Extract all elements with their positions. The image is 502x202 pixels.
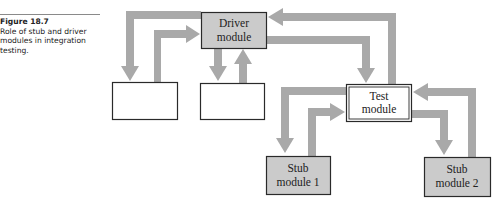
- driver-module-label-line2: module: [217, 31, 252, 43]
- blank-module-1-node: [113, 83, 178, 120]
- arrow-driver-to-test: [266, 36, 375, 83]
- arrow-driver-to-blank2: [209, 48, 227, 81]
- arrow-test-to-driver: [268, 8, 396, 85]
- blank-module-2-node: [201, 84, 265, 120]
- integration-testing-diagram: Driver module Test module Stub module 1 …: [0, 0, 502, 202]
- stub-module-1-node: Stub module 1: [267, 157, 331, 195]
- arrow-stub1-to-test: [308, 103, 345, 156]
- stub-module-1-label-line2: module 1: [276, 176, 319, 188]
- test-module-label-line1: Test: [370, 90, 390, 102]
- stub-module-2-label-line2: module 2: [435, 177, 478, 189]
- stub-module-1-label-line1: Stub: [287, 162, 308, 174]
- test-module-node: Test module: [347, 85, 412, 122]
- arrow-blank2-to-driver: [234, 49, 252, 83]
- stub-module-2-label-line1: Stub: [446, 163, 467, 175]
- arrow-blank1-to-driver: [154, 25, 200, 82]
- stub-module-2-node: Stub module 2: [425, 158, 491, 197]
- driver-module-node: Driver module: [202, 13, 267, 49]
- driver-module-label-line1: Driver: [219, 17, 249, 29]
- test-module-label-line2: module: [362, 103, 397, 115]
- arrow-test-to-stub2: [411, 110, 453, 155]
